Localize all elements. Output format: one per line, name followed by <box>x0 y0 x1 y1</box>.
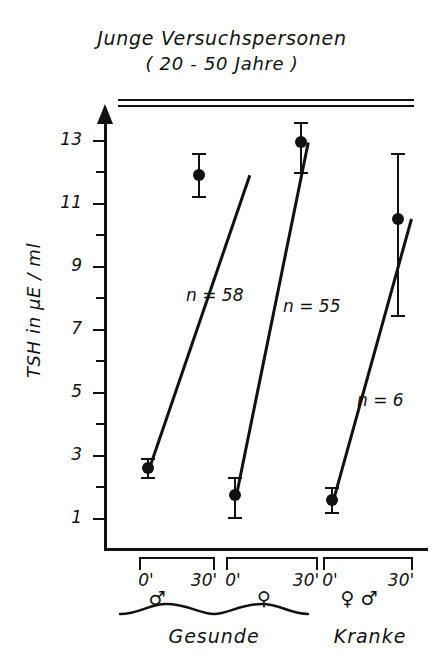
figure-root: Junge Versuchspersonen ( 20 - 50 Jahre )… <box>0 0 444 670</box>
series-n55-n-label: n = 55 <box>283 296 340 316</box>
series-n55-point-30 <box>295 136 307 148</box>
series-n6-errorcap-bottom-30 <box>391 315 405 317</box>
series-n6-errorbar-30 <box>397 153 399 316</box>
series-n58-point-30 <box>193 169 205 181</box>
series-n6-errorcap-bottom-0 <box>325 512 339 514</box>
group-bracket-1 <box>139 557 215 570</box>
series-n58-n-label: n = 58 <box>186 285 243 305</box>
series-n6-errorcap-top-30 <box>391 153 405 155</box>
series-n55-point-0 <box>229 489 241 501</box>
series-n58-errorcap-bottom-0 <box>141 477 155 479</box>
series-n55-errorcap-top-0 <box>228 477 242 479</box>
group-bracket-2 <box>226 557 318 570</box>
xtick-g3-30: 30' <box>379 570 423 590</box>
series-n58-line <box>148 174 251 469</box>
sex-symbol-female-male-group3-icon: ♀ ♂ <box>331 589 387 608</box>
series-n58-errorcap-bottom-30 <box>192 196 206 198</box>
series-n6-errorcap-top-0 <box>325 487 339 489</box>
series-n6-line <box>332 219 413 501</box>
group-label-gesunde: Gesunde <box>118 625 310 647</box>
series-n58-point-0 <box>142 462 154 474</box>
group-bracket-3 <box>323 557 413 570</box>
series-n58-errorcap-top-0 <box>141 458 155 460</box>
series-n6-point-30 <box>392 213 404 225</box>
series-n55-line <box>235 142 310 495</box>
xtick-g2-0: 0' <box>213 570 253 590</box>
series-n55-errorcap-top-30 <box>294 122 308 124</box>
series-n6-point-0 <box>326 494 338 506</box>
series-n58-errorcap-top-30 <box>192 153 206 155</box>
series-n55-errorcap-bottom-0 <box>228 517 242 519</box>
group-label-kranke: Kranke <box>322 625 418 647</box>
series-n6-n-label: n = 6 <box>357 390 404 410</box>
brace-gesunde <box>118 600 310 618</box>
series-n55-errorcap-bottom-30 <box>294 172 308 174</box>
